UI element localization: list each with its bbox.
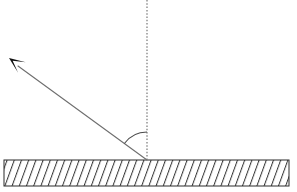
surface-hatch-lines (4, 160, 289, 186)
diagram-svg (0, 0, 297, 192)
angle-of-incidence-arc (124, 132, 147, 144)
optics-ray-diagram-canvas (0, 0, 297, 192)
surface-hatch-fill (4, 160, 289, 186)
incident-ray-line (18, 66, 147, 160)
hatched-surface (4, 160, 289, 186)
